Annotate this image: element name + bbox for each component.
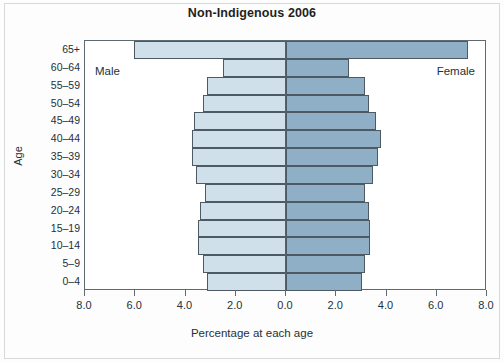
female-bar <box>286 112 376 130</box>
pyramid-row <box>85 255 485 273</box>
age-tick-label: 60–64 <box>18 62 80 73</box>
x-tick-mark <box>335 290 336 296</box>
x-tick-mark <box>235 290 236 296</box>
age-tick-label: 20–24 <box>18 205 80 216</box>
x-tick-label: 6.0 <box>428 299 443 311</box>
male-bar <box>196 166 286 184</box>
female-bar <box>286 237 370 255</box>
x-tick-label: 0.0 <box>277 299 292 311</box>
x-axis-tick-marks <box>84 290 486 297</box>
age-tick-label: 50–54 <box>18 98 80 109</box>
pyramid-row <box>85 184 485 202</box>
age-tick-labels: 65+60–6455–5950–5445–4940–4435–3930–3425… <box>12 40 80 290</box>
pyramid-row <box>85 95 485 113</box>
age-tick-label: 30–34 <box>18 169 80 180</box>
pyramid-row <box>85 59 485 77</box>
pyramid-row <box>85 130 485 148</box>
pyramid-row <box>85 77 485 95</box>
female-bar <box>286 130 381 148</box>
x-tick-mark <box>84 290 85 296</box>
x-tick-label: 2.0 <box>328 299 343 311</box>
pyramid-row <box>85 273 485 291</box>
male-bar <box>205 184 286 202</box>
male-bar <box>203 95 286 113</box>
pyramid-row <box>85 166 485 184</box>
female-bar <box>286 41 468 59</box>
age-tick-label: 35–39 <box>18 151 80 162</box>
chart-title: Non-Indigenous 2006 <box>0 6 504 20</box>
male-series-label: Male <box>95 65 120 77</box>
x-tick-mark <box>285 290 286 296</box>
x-tick-label: 4.0 <box>378 299 393 311</box>
x-tick-label: 8.0 <box>478 299 493 311</box>
female-bar <box>286 166 373 184</box>
x-tick-mark <box>486 290 487 296</box>
x-tick-label: 8.0 <box>76 299 91 311</box>
age-tick-label: 40–44 <box>18 133 80 144</box>
x-tick-mark <box>386 290 387 296</box>
age-tick-label: 15–19 <box>18 223 80 234</box>
female-bar <box>286 220 370 238</box>
female-bar <box>286 255 365 273</box>
male-bar <box>207 77 286 95</box>
age-tick-label: 5–9 <box>18 258 80 269</box>
male-bar <box>207 273 286 291</box>
age-tick-label: 55–59 <box>18 80 80 91</box>
x-axis-tick-labels: 8.06.04.02.00.02.04.06.08.0 <box>84 299 486 315</box>
x-tick-label: 2.0 <box>227 299 242 311</box>
pyramid-row <box>85 41 485 59</box>
female-bar <box>286 77 365 95</box>
pyramid-row <box>85 148 485 166</box>
male-bar <box>134 41 286 59</box>
x-tick-mark <box>134 290 135 296</box>
pyramid-row <box>85 220 485 238</box>
x-axis-title: Percentage at each age <box>0 327 504 339</box>
x-tick-mark <box>185 290 186 296</box>
male-bar <box>203 255 286 273</box>
pyramid-row <box>85 202 485 220</box>
age-tick-label: 65+ <box>18 44 80 55</box>
female-series-label: Female <box>437 65 475 77</box>
age-tick-label: 0–4 <box>18 276 80 287</box>
male-bar <box>200 202 286 220</box>
female-bar <box>286 148 378 166</box>
female-bar <box>286 273 362 291</box>
male-bar <box>194 112 286 130</box>
plot-area: Male Female <box>84 40 486 290</box>
female-bar <box>286 202 369 220</box>
x-tick-label: 6.0 <box>127 299 142 311</box>
age-tick-label: 45–49 <box>18 115 80 126</box>
male-bar <box>198 237 286 255</box>
female-bar <box>286 59 349 77</box>
age-tick-label: 25–29 <box>18 187 80 198</box>
male-bar <box>192 148 286 166</box>
female-bar <box>286 184 365 202</box>
x-tick-mark <box>436 290 437 296</box>
pyramid-row <box>85 237 485 255</box>
male-bar <box>192 130 286 148</box>
age-tick-label: 10–14 <box>18 240 80 251</box>
female-bar <box>286 95 369 113</box>
male-bar <box>223 59 286 77</box>
x-tick-label: 4.0 <box>177 299 192 311</box>
population-pyramid-figure: Non-Indigenous 2006 Age 65+60–6455–5950–… <box>0 0 504 362</box>
male-bar <box>198 220 286 238</box>
pyramid-row <box>85 112 485 130</box>
